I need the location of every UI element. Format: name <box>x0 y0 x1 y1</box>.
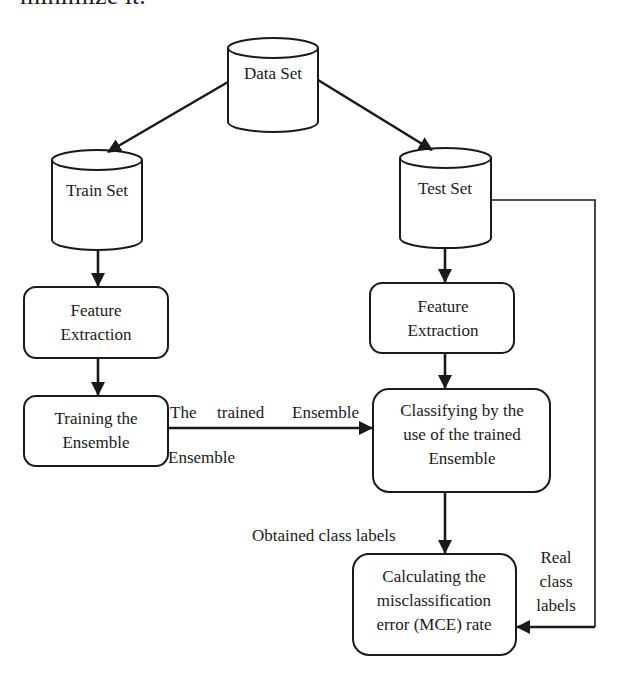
mce-box: Calculating the misclassification error … <box>353 554 516 655</box>
test-set-label: Test Set <box>418 179 472 198</box>
feature-extraction-right-box: Feature Extraction <box>370 283 514 353</box>
real-label-line2: class <box>539 572 572 591</box>
feature-left-line1: Feature <box>71 301 122 320</box>
data-set-cylinder: Data Set <box>228 38 318 132</box>
feature-left-line2: Extraction <box>61 325 132 344</box>
edge-label-ensemble: Ensemble <box>292 403 359 422</box>
feature-right-line1: Feature <box>418 297 469 316</box>
train-set-cylinder: Train Set <box>52 150 142 250</box>
mce-line2: misclassification <box>377 591 492 610</box>
training-line1: Training the <box>55 409 138 428</box>
feature-right-line2: Extraction <box>408 321 479 340</box>
data-set-label: Data Set <box>244 64 302 83</box>
flowchart-canvas: minimize it. Data Set Train Set Test Set… <box>0 0 622 689</box>
classifying-box: Classifying by the use of the trained En… <box>373 389 550 492</box>
real-label-line3: labels <box>536 596 576 615</box>
arrow-data-to-test <box>318 80 432 150</box>
train-set-label: Train Set <box>66 181 128 200</box>
feature-extraction-left-box: Feature Extraction <box>24 287 168 358</box>
classifying-line2: use of the trained <box>403 425 521 444</box>
arrow-data-to-train <box>108 82 228 152</box>
real-label-line1: Real <box>540 548 571 567</box>
edge-label-ensemble-extra: Ensemble <box>168 448 235 467</box>
mce-line3: error (MCE) rate <box>376 615 491 634</box>
edge-label-the: The <box>170 403 196 422</box>
header-text-fragment: minimize it. <box>20 0 146 10</box>
edge-label-obtained: Obtained class labels <box>252 526 396 545</box>
edge-label-trained: trained <box>217 403 265 422</box>
classifying-line3: Ensemble <box>428 449 495 468</box>
test-set-cylinder: Test Set <box>400 148 491 248</box>
training-ensemble-box: Training the Ensemble <box>24 396 168 466</box>
training-line2: Ensemble <box>62 433 129 452</box>
mce-line1: Calculating the <box>382 567 485 586</box>
classifying-line1: Classifying by the <box>400 401 524 420</box>
